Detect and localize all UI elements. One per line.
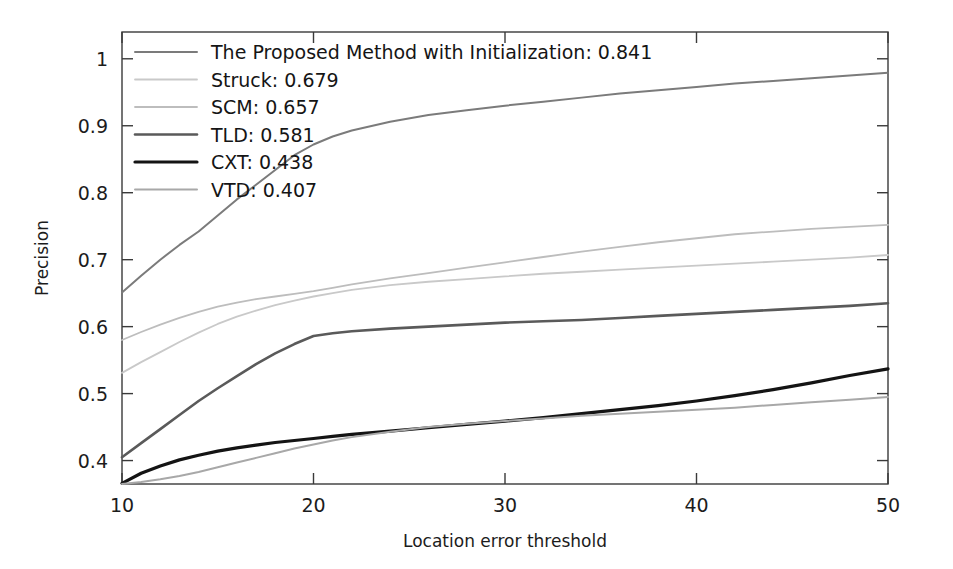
x-tick-label: 40 bbox=[684, 494, 708, 516]
legend-label-the-proposed-method-with-initialization: The Proposed Method with Initialization:… bbox=[210, 41, 652, 63]
y-tick-label: 0.7 bbox=[78, 249, 108, 271]
series-line-tld bbox=[122, 303, 888, 457]
x-axis-title: Location error threshold bbox=[403, 531, 607, 551]
y-tick-label: 0.9 bbox=[78, 115, 108, 137]
series-line-vtd bbox=[122, 397, 888, 484]
y-tick-label: 0.8 bbox=[78, 182, 108, 204]
y-tick-label: 0.5 bbox=[78, 383, 108, 405]
precision-plot-svg: 0.40.50.60.70.80.911020304050Location er… bbox=[0, 0, 953, 569]
series-line-struck bbox=[122, 255, 888, 373]
legend-label-struck: Struck: 0.679 bbox=[211, 69, 339, 91]
y-tick-label: 0.6 bbox=[78, 316, 108, 338]
legend-label-tld: TLD: 0.581 bbox=[210, 124, 315, 146]
y-tick-label: 0.4 bbox=[78, 450, 108, 472]
precision-plot-figure: 0.40.50.60.70.80.911020304050Location er… bbox=[0, 0, 953, 569]
legend-label-scm: SCM: 0.657 bbox=[211, 96, 320, 118]
series-line-cxt bbox=[122, 369, 888, 484]
legend-label-vtd: VTD: 0.407 bbox=[211, 179, 317, 201]
x-tick-label: 50 bbox=[876, 494, 900, 516]
y-tick-label: 1 bbox=[96, 48, 108, 70]
x-tick-label: 30 bbox=[493, 494, 517, 516]
x-tick-label: 10 bbox=[110, 494, 134, 516]
y-axis-title: Precision bbox=[32, 220, 52, 296]
x-tick-label: 20 bbox=[301, 494, 325, 516]
legend-label-cxt: CXT: 0.438 bbox=[211, 151, 313, 173]
